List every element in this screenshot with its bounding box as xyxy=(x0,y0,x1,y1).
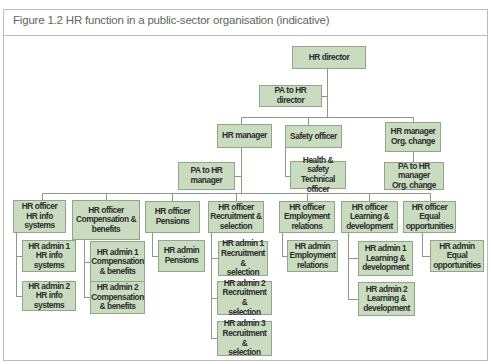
connector xyxy=(42,193,43,200)
connector xyxy=(348,233,349,299)
connector xyxy=(241,117,242,124)
connector xyxy=(236,193,237,201)
connector xyxy=(241,148,242,193)
connector xyxy=(308,117,309,125)
node-hr-manager-org-change: HR manager Org. change xyxy=(385,122,441,152)
figure-header: Figure 1.2 HR function in a public-secto… xyxy=(3,9,488,36)
node-admin-comp-1: HR admin 1 Compensation & benefits xyxy=(90,241,145,283)
connector xyxy=(16,233,17,296)
connector xyxy=(307,193,308,201)
connector xyxy=(235,176,241,177)
figure-title: Figure 1.2 HR function in a public-secto… xyxy=(13,14,329,26)
node-pa-hr-director: PA to HR director xyxy=(259,85,322,107)
connector xyxy=(172,193,173,201)
connector xyxy=(322,96,327,97)
connector xyxy=(211,233,212,339)
connector xyxy=(282,233,283,256)
node-admin-learning-1: HR admin 1 Learning & development xyxy=(358,241,413,276)
node-officer-employment: HR officer Employment relations xyxy=(279,201,335,233)
connector xyxy=(327,69,328,117)
connector xyxy=(211,258,218,259)
connector xyxy=(285,148,286,176)
connector xyxy=(84,240,85,297)
node-officer-info-systems: HR officer HR info systems xyxy=(13,200,66,233)
node-safety-officer: Safety officer xyxy=(285,125,342,148)
node-pa-hr-manager: PA to HR manager xyxy=(178,162,235,190)
connector xyxy=(348,299,358,300)
node-admin-recruit-1: HR admin 1 Recruitment & selection xyxy=(218,241,268,276)
node-admin-recruit-3: HR admin 3 Recruitment & selection xyxy=(217,321,272,356)
node-admin-info-2: HR admin 2 HR info systems xyxy=(22,281,76,311)
connector xyxy=(369,193,370,201)
node-admin-recruit-2: HR admin 2 Recruitment & selection xyxy=(217,281,272,315)
connector xyxy=(430,193,431,201)
node-officer-learning: HR officer Learning & development xyxy=(341,201,398,233)
node-officer-equal-opps: HR officer Equal opportunities xyxy=(403,201,456,233)
node-hr-director: HR director xyxy=(292,46,366,69)
node-admin-comp-2: HR admin 2 Compensation & benefits xyxy=(90,281,145,314)
node-officer-pensions: HR officer Pensions xyxy=(145,201,200,233)
connector xyxy=(422,256,430,257)
connector xyxy=(422,233,423,256)
node-admin-info-1: HR admin 1 HR info systems xyxy=(22,240,76,272)
node-admin-learning-2: HR admin 2 Learning & development xyxy=(358,282,415,316)
connector xyxy=(152,233,153,256)
node-hr-manager: HR manager xyxy=(217,124,272,148)
node-pa-hr-manager-org-change: PA to HR manager Org. change xyxy=(384,162,444,190)
node-admin-equal-opps: HR admin Equal opportunities xyxy=(430,240,484,272)
connector xyxy=(241,117,414,118)
node-health-safety-officer: Health & safety Technical officer xyxy=(290,161,346,189)
connector xyxy=(106,193,107,200)
node-officer-recruitment: HR officer Recruitment & selection xyxy=(208,201,264,233)
node-officer-compensation: HR officer Compensation & benefits xyxy=(72,200,140,240)
connector xyxy=(348,258,358,259)
node-admin-pensions: HR admin Pensions xyxy=(158,240,205,272)
node-admin-employment: HR admin Employment relations xyxy=(287,240,338,272)
